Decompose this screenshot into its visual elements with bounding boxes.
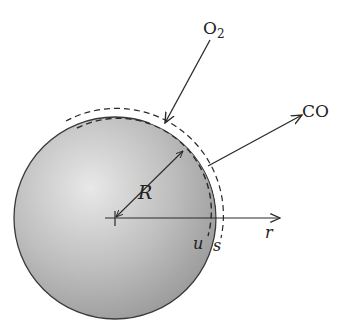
o2-label: O2: [203, 18, 225, 41]
o2-arrow: [165, 40, 210, 123]
co-arrow: [208, 115, 302, 166]
radius-label: R: [137, 181, 152, 203]
s-label: s: [213, 236, 221, 255]
u-label: u: [193, 234, 203, 253]
diagram-canvas: O2 CO R r u s: [0, 0, 352, 329]
co-label: CO: [302, 101, 329, 121]
r-axis-label: r: [265, 223, 274, 242]
